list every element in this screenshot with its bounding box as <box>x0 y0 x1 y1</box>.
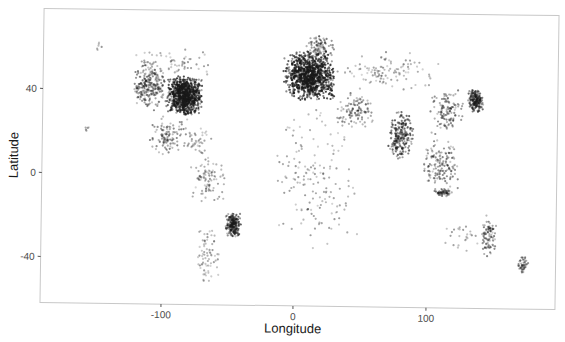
x-tick-label: 100 <box>417 313 434 324</box>
x-axis: -100 0 100 Longitude <box>151 304 435 338</box>
x-tick-label: -100 <box>151 309 172 320</box>
y-tick-label: -40 <box>20 251 35 262</box>
y-axis: 40 0 -40 Latitude <box>5 82 43 261</box>
plot-panel <box>40 8 559 309</box>
y-axis-title: Latitude <box>6 132 22 178</box>
y-tick-label: 40 <box>26 83 38 94</box>
x-axis-title: Longitude <box>264 321 321 337</box>
y-tick-label: 0 <box>30 167 36 178</box>
scatter-chart: 40 0 -40 Latitude -100 0 100 Longitude <box>0 0 565 342</box>
